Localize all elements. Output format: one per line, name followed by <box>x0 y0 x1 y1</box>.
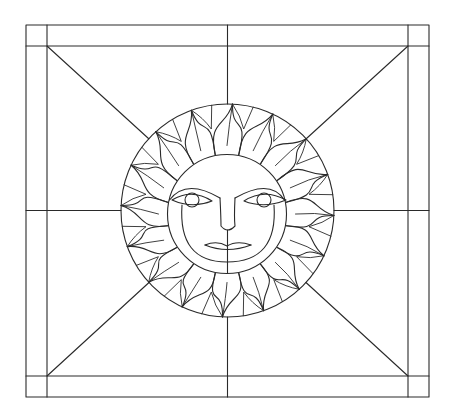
diagonal-br <box>306 282 408 376</box>
ray-vein <box>182 277 201 307</box>
ray-right-edge <box>261 114 273 164</box>
diagonal-tr <box>306 46 408 139</box>
ray-left-edge <box>156 132 177 181</box>
sun-pattern-drawing <box>0 0 454 417</box>
sun-face <box>170 188 287 273</box>
ray-gap-piece <box>136 257 158 283</box>
ray-left-edge <box>131 165 168 202</box>
ray-gap-piece <box>297 139 319 165</box>
ray-gap-piece <box>202 292 223 317</box>
ray-left-edge <box>277 169 327 180</box>
left-eye <box>172 194 212 205</box>
ray-gap-piece <box>156 119 182 141</box>
sun-circles <box>121 104 334 317</box>
ray-left-edge <box>213 104 232 155</box>
ray-right-edge <box>286 215 334 227</box>
ray-vein <box>127 240 163 246</box>
ray-vein <box>149 262 179 282</box>
ray-right-edge <box>127 226 167 247</box>
ray-right-edge <box>261 264 300 289</box>
ray-gap-piece <box>121 185 146 206</box>
right-eye <box>244 194 286 205</box>
pattern-canvas: Sun face stained glass pattern <box>0 0 454 417</box>
ray-left-edge <box>239 114 273 155</box>
ray-gap-piece <box>273 114 291 141</box>
frame-divider-lines <box>26 25 429 397</box>
ray-gap-piece <box>164 280 182 307</box>
ray-left-edge <box>121 206 168 227</box>
sun-rays <box>121 104 334 317</box>
ray-gap-piece <box>274 280 300 302</box>
ray-left-edge <box>182 273 215 307</box>
ray-vein <box>156 132 179 166</box>
ray-gap-piece <box>131 147 158 165</box>
diagonal-bl <box>47 282 149 376</box>
ray-gap-piece <box>297 256 324 274</box>
ray-left-edge <box>127 246 176 253</box>
nose <box>220 198 235 230</box>
outer-circle <box>121 104 334 317</box>
ray-vein <box>253 277 263 310</box>
ray-left-edge <box>185 110 193 163</box>
diagonal-tl <box>47 46 149 139</box>
ray-gap-piece <box>309 216 334 237</box>
ray-right-edge <box>286 174 327 202</box>
ray-gap-piece <box>233 104 254 129</box>
ray-right-edge <box>239 273 264 310</box>
ray-vein <box>121 206 158 215</box>
